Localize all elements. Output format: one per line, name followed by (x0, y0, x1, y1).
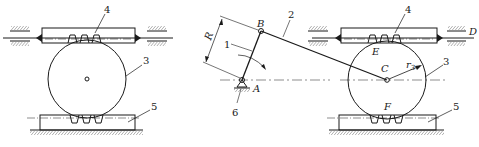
right-guide-bearing-right (447, 26, 466, 46)
label-gear-center: C (381, 63, 389, 74)
label-upper-rack-left: 4 (104, 4, 110, 15)
label-pivot-a: A (252, 83, 260, 94)
leader-5-left (128, 110, 150, 122)
label-gear-left: 3 (143, 55, 149, 66)
left-gear (48, 40, 126, 118)
dimension-ext-bottom (203, 62, 240, 78)
right-mechanism: 4 3 5 C E F D r3 (308, 4, 477, 135)
label-crank-length: R (202, 30, 215, 42)
leader-3-left (126, 65, 142, 76)
right-gear (340, 41, 448, 119)
radius-arrow (389, 66, 420, 79)
left-guide-bearing-right (147, 26, 167, 46)
leader-4-left (95, 14, 105, 33)
label-rack-end: D (468, 26, 477, 37)
label-crank: 1 (224, 39, 230, 50)
label-joint-b: B (256, 18, 264, 29)
pivot-a (234, 78, 250, 93)
label-lower-rack-left: 5 (151, 101, 157, 112)
label-gear-right: 3 (443, 56, 449, 67)
left-mechanism: 4 3 5 (3, 4, 173, 135)
left-guide-bearing-left (10, 26, 30, 46)
label-lower-contact: F (383, 101, 392, 112)
label-frame: 6 (232, 107, 238, 118)
label-upper-rack-right: 4 (405, 4, 411, 15)
label-lower-rack-right: 5 (453, 101, 459, 112)
left-upper-rack (36, 28, 141, 43)
left-lower-rack (27, 115, 143, 135)
dimension-ext-top (220, 16, 258, 30)
label-upper-contact: E (371, 46, 380, 57)
mechanism-diagram: 4 3 5 R 1 2 B (0, 0, 479, 147)
right-lower-rack (327, 115, 444, 135)
right-guide-bearing-left (308, 26, 328, 46)
linkage: R 1 2 B A 6 (202, 9, 387, 118)
label-radius: r3 (406, 59, 416, 72)
label-connecting-rod: 2 (288, 9, 294, 20)
